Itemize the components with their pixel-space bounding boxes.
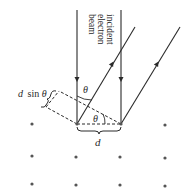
lattice-atom bbox=[163, 156, 166, 159]
arrow-down-icon bbox=[75, 77, 80, 82]
lattice-atom bbox=[163, 123, 166, 126]
diffracted-beam-right bbox=[121, 27, 180, 124]
beam-label-line-3: beam bbox=[87, 14, 97, 35]
lattice-atom bbox=[30, 122, 33, 125]
theta-arc-top bbox=[77, 96, 92, 100]
dsin-theta: θ bbox=[42, 88, 47, 99]
lattice-atom bbox=[163, 184, 166, 187]
lattice-atom bbox=[30, 182, 33, 185]
lattice-atom bbox=[30, 154, 33, 157]
beam-label-line-3-text: beam bbox=[87, 14, 97, 35]
spacing-bracket bbox=[77, 127, 121, 134]
dsin-sin: sin bbox=[28, 88, 40, 99]
lattice-atom bbox=[118, 183, 121, 186]
lattice-atom bbox=[119, 122, 122, 125]
lattice-atom bbox=[118, 155, 121, 158]
spacing-label: d bbox=[95, 136, 101, 148]
arrow-down-icon bbox=[119, 77, 124, 82]
lattice-atom bbox=[75, 122, 78, 125]
perpendicular-dashed-line-2 bbox=[46, 107, 77, 124]
diffraction-diagram: incident electron beam θ θ d sin θ d bbox=[0, 0, 187, 192]
theta-label-bottom: θ bbox=[93, 113, 98, 124]
dsin-d: d bbox=[18, 88, 24, 99]
lattice-atom bbox=[74, 155, 77, 158]
lattice-atom bbox=[74, 183, 77, 186]
dsin-label: d sin θ bbox=[18, 88, 47, 99]
theta-label-top: θ bbox=[83, 84, 88, 95]
theta-arc-bottom bbox=[103, 114, 105, 124]
